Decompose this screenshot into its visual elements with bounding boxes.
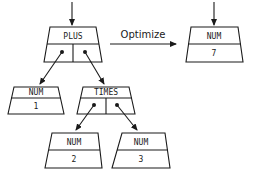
num2-value: 2 (72, 155, 77, 164)
times-node-label: TIMES (94, 88, 118, 97)
optimize-label: Optimize (121, 29, 166, 40)
plus-node-label: PLUS (63, 32, 82, 41)
num1-label: NUM (29, 88, 44, 97)
num-node-2: NUM 2 (45, 133, 102, 168)
num3-label: NUM (134, 138, 149, 147)
num-node-3: NUM 3 (112, 133, 170, 168)
times-node: TIMES (77, 87, 135, 114)
ast-optimize-diagram: PLUS NUM 1 TIMES NUM 2 NUM 3 Opt (0, 0, 255, 178)
num7-value: 7 (212, 49, 217, 58)
num-node-1: NUM 1 (8, 87, 64, 114)
num2-label: NUM (67, 138, 82, 147)
num7-label: NUM (207, 32, 222, 41)
num1-value: 1 (34, 102, 39, 111)
plus-node: PLUS (44, 27, 102, 62)
num-node-7: NUM 7 (186, 27, 243, 62)
num3-value: 3 (139, 155, 144, 164)
